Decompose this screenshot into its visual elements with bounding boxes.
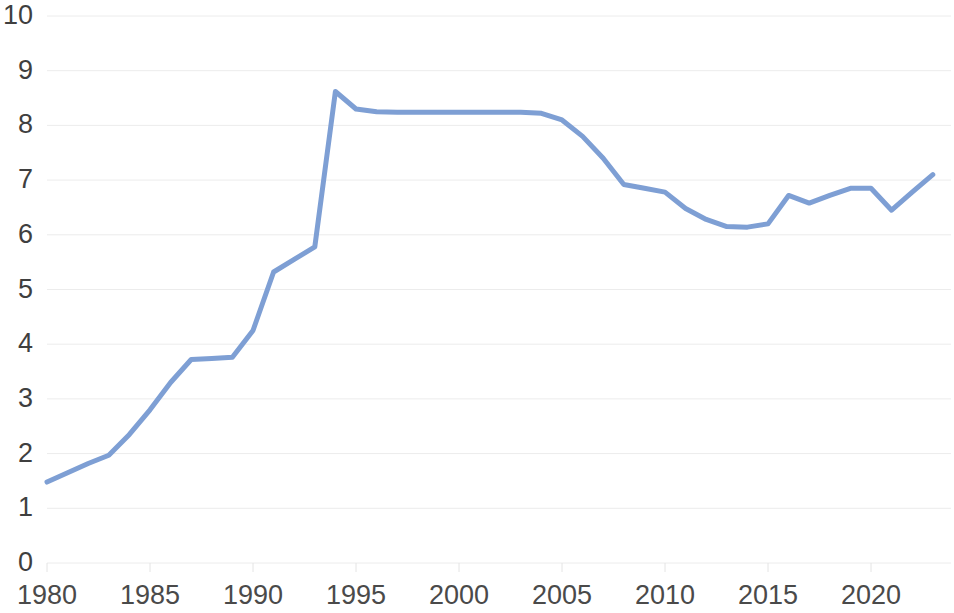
y-axis-tick-label: 3 xyxy=(18,385,33,412)
line-chart: 109876543210 198019851990199520002005201… xyxy=(0,0,954,613)
x-axis-tick-label: 1990 xyxy=(203,582,303,609)
y-axis-tick-label: 5 xyxy=(18,276,33,303)
chart-plot-area xyxy=(0,0,954,613)
y-axis-tick-label: 1 xyxy=(18,494,33,521)
y-axis-tick-label: 4 xyxy=(18,330,33,357)
x-axis-tick-label: 2010 xyxy=(615,582,715,609)
y-axis-tick-label: 9 xyxy=(18,57,33,84)
y-axis-tick-label: 8 xyxy=(18,111,33,138)
data-series-layer xyxy=(47,91,933,482)
x-axis-tick-label: 1980 xyxy=(0,582,97,609)
y-axis-tick-label: 6 xyxy=(18,221,33,248)
x-axis-tick-label: 1995 xyxy=(306,582,406,609)
x-axis-tick-label: 2020 xyxy=(821,582,921,609)
x-axis-tick-label: 2015 xyxy=(718,582,818,609)
y-axis-tick-label: 0 xyxy=(18,549,33,576)
x-axis-tick-label: 1985 xyxy=(100,582,200,609)
data-line xyxy=(47,91,933,482)
gridlines xyxy=(47,16,951,563)
y-axis-tick-label: 7 xyxy=(18,166,33,193)
x-axis-tick-label: 2000 xyxy=(409,582,509,609)
y-axis-tick-label: 10 xyxy=(3,2,33,29)
x-axis-ticks xyxy=(47,563,871,572)
y-axis-tick-label: 2 xyxy=(18,440,33,467)
x-axis-tick-label: 2005 xyxy=(512,582,612,609)
